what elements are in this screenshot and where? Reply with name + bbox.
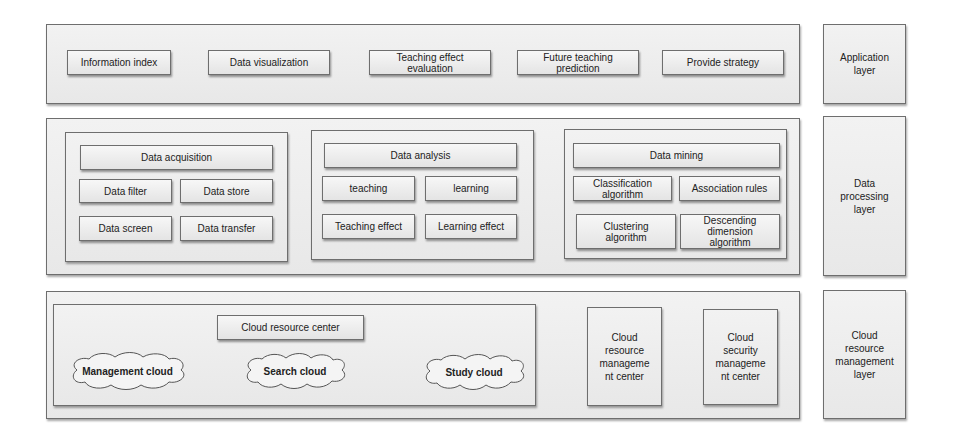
clustering-algorithm-box: Clustering algorithm bbox=[576, 214, 676, 249]
data-mining-box: Data mining bbox=[573, 143, 780, 168]
teaching-effect-evaluation-box: Teaching effect evaluation bbox=[369, 50, 491, 75]
cloud-resource-management-center-box: Cloud resource manageme nt center bbox=[587, 307, 662, 406]
data-transfer-box: Data transfer bbox=[180, 216, 273, 241]
study-cloud: Study cloud bbox=[418, 352, 530, 392]
association-rules-label: Association rules bbox=[692, 183, 768, 194]
data-mining-label: Data mining bbox=[650, 150, 703, 161]
data-filter-label: Data filter bbox=[104, 186, 147, 197]
classification-algorithm-box: Classification algorithm bbox=[573, 176, 672, 201]
data-store-label: Data store bbox=[203, 186, 249, 197]
teaching-effect-box: Teaching effect bbox=[322, 214, 415, 239]
data-visualization-box: Data visualization bbox=[208, 50, 330, 75]
data-analysis-box: Data analysis bbox=[324, 143, 517, 168]
data-analysis-label: Data analysis bbox=[390, 150, 450, 161]
management-cloud: Management cloud bbox=[65, 350, 190, 392]
teaching-effect-label: Teaching effect bbox=[335, 221, 402, 232]
search-cloud-label: Search cloud bbox=[240, 351, 350, 391]
provide-strategy-label: Provide strategy bbox=[687, 57, 759, 68]
cloud-security-management-center-label: Cloud security manageme nt center bbox=[712, 331, 770, 383]
classification-algorithm-label: Classification algorithm bbox=[583, 178, 663, 200]
learning-effect-box: Learning effect bbox=[425, 214, 517, 239]
cloud-resource-management-layer-label: Cloud resource management layer bbox=[832, 329, 898, 381]
data-screen-label: Data screen bbox=[99, 223, 153, 234]
application-layer-label: Application layer bbox=[835, 51, 895, 77]
future-teaching-prediction-label: Future teaching prediction bbox=[538, 52, 618, 74]
provide-strategy-box: Provide strategy bbox=[662, 50, 784, 75]
data-processing-layer-label-box: Data processing layer bbox=[823, 116, 906, 276]
data-transfer-label: Data transfer bbox=[198, 223, 256, 234]
application-layer-label-box: Application layer bbox=[823, 24, 906, 104]
search-cloud: Search cloud bbox=[240, 351, 350, 391]
learning-box: learning bbox=[425, 176, 517, 201]
descending-dimension-algorithm-box: Descending dimension algorithm bbox=[680, 214, 780, 249]
data-acquisition-label: Data acquisition bbox=[141, 152, 212, 163]
learning-effect-label: Learning effect bbox=[438, 221, 504, 232]
management-cloud-label: Management cloud bbox=[65, 350, 190, 392]
teaching-box: teaching bbox=[322, 176, 415, 201]
clustering-algorithm-label: Clustering algorithm bbox=[591, 221, 661, 243]
cloud-resource-center-label: Cloud resource center bbox=[241, 322, 339, 333]
data-filter-box: Data filter bbox=[79, 179, 172, 203]
cloud-security-management-center-box: Cloud security manageme nt center bbox=[703, 309, 778, 405]
information-index-box: Information index bbox=[67, 50, 171, 75]
data-screen-box: Data screen bbox=[79, 216, 172, 241]
information-index-label: Information index bbox=[81, 57, 158, 68]
study-cloud-label: Study cloud bbox=[418, 352, 530, 392]
data-processing-layer-label: Data processing layer bbox=[835, 177, 895, 216]
data-store-box: Data store bbox=[180, 179, 273, 203]
data-visualization-label: Data visualization bbox=[230, 57, 308, 68]
future-teaching-prediction-box: Future teaching prediction bbox=[517, 50, 639, 75]
cloud-resource-management-center-label: Cloud resource manageme nt center bbox=[596, 331, 654, 383]
learning-label: learning bbox=[453, 183, 489, 194]
association-rules-box: Association rules bbox=[679, 176, 780, 201]
teaching-label: teaching bbox=[350, 183, 388, 194]
cloud-resource-center-box: Cloud resource center bbox=[217, 315, 364, 340]
descending-dimension-algorithm-label: Descending dimension algorithm bbox=[695, 215, 765, 248]
teaching-effect-evaluation-label: Teaching effect evaluation bbox=[385, 52, 475, 74]
data-acquisition-box: Data acquisition bbox=[80, 145, 273, 170]
cloud-resource-management-layer-label-box: Cloud resource management layer bbox=[823, 290, 906, 419]
